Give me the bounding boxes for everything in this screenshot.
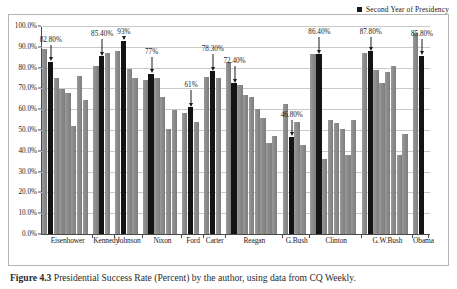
annotation-arrow-head: [211, 67, 215, 71]
x-axis-label-obama: Obama: [413, 236, 429, 245]
bar: [226, 62, 231, 234]
y-tick-label: 90.0%: [18, 43, 37, 51]
bar: [272, 136, 277, 234]
x-axis-label-kennedy: Kennedy: [93, 236, 115, 245]
y-tick-mark: [38, 46, 41, 47]
annotation-arrow-shaft: [234, 66, 235, 79]
y-tick-label: 20.0%: [18, 188, 37, 196]
caption-figure-number: Figure 4.3: [10, 272, 51, 283]
y-tick-label: 10.0%: [18, 209, 37, 217]
annotation-arrow-head: [150, 69, 154, 73]
bar: [373, 70, 378, 234]
figure-root: Second Year of Presidency 0.0%10.0%20.0%…: [0, 0, 457, 289]
bar-group-obama: [413, 26, 429, 234]
annotation-arrow-head: [233, 79, 237, 83]
y-tick-mark: [38, 234, 41, 235]
bar-group-kennedy: [93, 26, 115, 234]
bar: [300, 145, 305, 234]
bar: [172, 110, 177, 234]
bar: [59, 89, 64, 234]
y-tick-label: 30.0%: [18, 168, 37, 176]
bar: [194, 122, 199, 234]
value-annotation: 61%: [184, 81, 197, 89]
bar: [328, 120, 333, 234]
bar-group-g-bush: [283, 26, 311, 234]
bar: [362, 53, 367, 234]
bar: [154, 78, 159, 234]
annotation-arrow-shaft: [422, 39, 423, 52]
bar: [345, 155, 350, 234]
annotation-arrow-shaft: [50, 45, 51, 58]
y-tick-mark: [38, 26, 41, 27]
annotation-arrow-head: [420, 51, 424, 55]
bar-group-johnson: [115, 26, 143, 234]
bar: [385, 72, 390, 234]
bar-highlight: [99, 56, 104, 234]
bar: [143, 80, 148, 234]
y-tick-label: 50.0%: [18, 126, 37, 134]
y-tick-mark: [38, 171, 41, 172]
x-axis-label-clinton: Clinton: [310, 236, 361, 245]
gridline: [41, 234, 430, 235]
bar-highlight: [48, 62, 53, 234]
bar-highlight: [188, 107, 193, 234]
y-tick-label: 60.0%: [18, 105, 37, 113]
bar: [340, 129, 345, 234]
bar: [42, 49, 47, 234]
bar: [54, 78, 59, 234]
value-annotation: 46.80%: [281, 111, 303, 119]
y-tick-mark: [38, 213, 41, 214]
bar: [182, 113, 187, 234]
bar: [402, 134, 407, 234]
bar-highlight: [368, 51, 373, 234]
bar-highlight: [121, 41, 126, 234]
bar: [249, 97, 254, 234]
y-tick-label: 70.0%: [18, 84, 37, 92]
y-tick-mark: [38, 130, 41, 131]
bar: [397, 155, 402, 234]
bar: [216, 78, 221, 234]
bar: [65, 93, 70, 234]
bar: [71, 126, 76, 234]
bar: [93, 66, 98, 234]
bar: [77, 76, 82, 234]
x-axis-label-g-bush: G.Bush: [283, 236, 311, 245]
bar: [160, 97, 165, 234]
value-annotation: 82.80%: [40, 36, 62, 44]
y-tick-mark: [38, 88, 41, 89]
annotation-arrow-shaft: [319, 37, 320, 50]
annotation-arrow-head: [369, 47, 373, 51]
annotation-arrow-shaft: [212, 54, 213, 67]
value-annotation: 77%: [145, 48, 158, 56]
bar: [132, 78, 137, 234]
y-tick-mark: [38, 150, 41, 151]
bar: [127, 69, 132, 234]
x-axis-labels: EisenhowerKennedyJohnsonNixonFordCarterR…: [42, 236, 431, 245]
annotation-arrow-head: [317, 50, 321, 54]
bar-group-ford: [182, 26, 204, 234]
bar: [322, 159, 327, 234]
annotation-arrow-shaft: [291, 120, 292, 133]
figure-caption: Figure 4.3 Presidential Success Rate (Pe…: [10, 272, 450, 284]
bar-group-clinton: [310, 26, 361, 234]
y-tick-mark: [38, 192, 41, 193]
legend-item-label: Second Year of Presidency: [366, 5, 449, 14]
bar: [391, 66, 396, 234]
bar: [166, 129, 171, 234]
bar: [115, 51, 120, 234]
value-annotation: 85.80%: [411, 30, 433, 38]
x-axis-label-eisenhower: Eisenhower: [42, 236, 93, 245]
annotation-arrow-head: [100, 52, 104, 56]
x-axis-label-johnson: Johnson: [115, 236, 143, 245]
x-axis-label-ford: Ford: [182, 236, 204, 245]
bar-highlight: [289, 137, 294, 234]
y-tick-mark: [38, 67, 41, 68]
bar-group-nixon: [143, 26, 182, 234]
annotation-arrow-head: [122, 36, 126, 40]
value-annotation: 93%: [117, 28, 130, 36]
bar: [237, 85, 242, 234]
bar: [379, 83, 384, 234]
bar: [413, 33, 418, 234]
annotation-arrow-shaft: [370, 37, 371, 47]
plot-area: 0.0%10.0%20.0%30.0%40.0%50.0%60.0%70.0%8…: [41, 26, 430, 234]
